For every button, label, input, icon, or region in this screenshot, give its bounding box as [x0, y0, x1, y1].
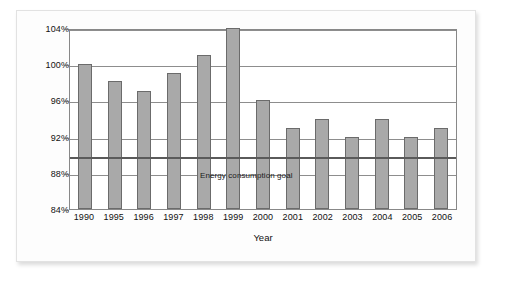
x-axis-tick-label-2006: 2006 [427, 212, 457, 228]
bar-slot [278, 30, 308, 209]
bar-2003 [345, 137, 359, 209]
y-axis-tick-label: 92% [25, 133, 69, 143]
x-axis-tick-labels: 1990199519961997199819992000200120022003… [69, 212, 457, 228]
bar-2005 [404, 137, 418, 209]
y-axis-tick-label: 96% [25, 96, 69, 106]
x-axis-title: Year [69, 232, 457, 243]
x-axis-tick-label-1990: 1990 [69, 212, 99, 228]
chart-plot-wrapper: 84%88%92%96%100%104% Energy consumption … [17, 11, 475, 261]
x-axis-tick-label-1999: 1999 [218, 212, 248, 228]
bar-1999 [226, 28, 240, 209]
x-axis-tick-label-1997: 1997 [159, 212, 189, 228]
bar-slot [308, 30, 338, 209]
x-axis-tick-label-2002: 2002 [308, 212, 338, 228]
bar-1996 [137, 91, 151, 209]
bar-slot [189, 30, 219, 209]
bar-slot [337, 30, 367, 209]
x-axis-tick-label-2003: 2003 [338, 212, 368, 228]
bar-1997 [167, 73, 181, 209]
goal-line [70, 157, 456, 159]
y-axis-tick-label: 100% [25, 60, 69, 70]
y-axis-tick-mark [64, 210, 69, 211]
bar-slot [159, 30, 189, 209]
y-axis-tick-label: 84% [25, 205, 69, 215]
bar-1990 [78, 64, 92, 209]
x-axis-tick-label-1998: 1998 [188, 212, 218, 228]
plot-area: Energy consumption goal [69, 29, 457, 210]
bar-slot [100, 30, 130, 209]
bar-slot [397, 30, 427, 209]
bar-2006 [434, 128, 448, 209]
bar-2001 [286, 128, 300, 209]
chart-figure: 84%88%92%96%100%104% Energy consumption … [16, 10, 476, 262]
bar-1998 [197, 55, 211, 209]
bar-slot [218, 30, 248, 209]
y-axis-tick-label: 88% [25, 169, 69, 179]
goal-line-label: Energy consumption goal [200, 171, 293, 180]
x-axis-tick-label-1995: 1995 [99, 212, 129, 228]
bar-slot [70, 30, 100, 209]
y-axis: 84%88%92%96%100%104% [17, 29, 69, 210]
x-axis-tick-label-2001: 2001 [278, 212, 308, 228]
bar-2002 [315, 119, 329, 210]
x-axis-tick-label-2000: 2000 [248, 212, 278, 228]
bar-2004 [375, 119, 389, 210]
x-axis-tick-label-2004: 2004 [367, 212, 397, 228]
bar-slot [426, 30, 456, 209]
bar-1995 [108, 81, 122, 209]
bar-slot [129, 30, 159, 209]
bar-slot [367, 30, 397, 209]
x-axis-tick-label-1996: 1996 [129, 212, 159, 228]
bar-slot [248, 30, 278, 209]
x-axis-tick-label-2005: 2005 [397, 212, 427, 228]
y-axis-tick-label: 104% [25, 24, 69, 34]
bar-2000 [256, 100, 270, 209]
bar-series [70, 30, 456, 209]
